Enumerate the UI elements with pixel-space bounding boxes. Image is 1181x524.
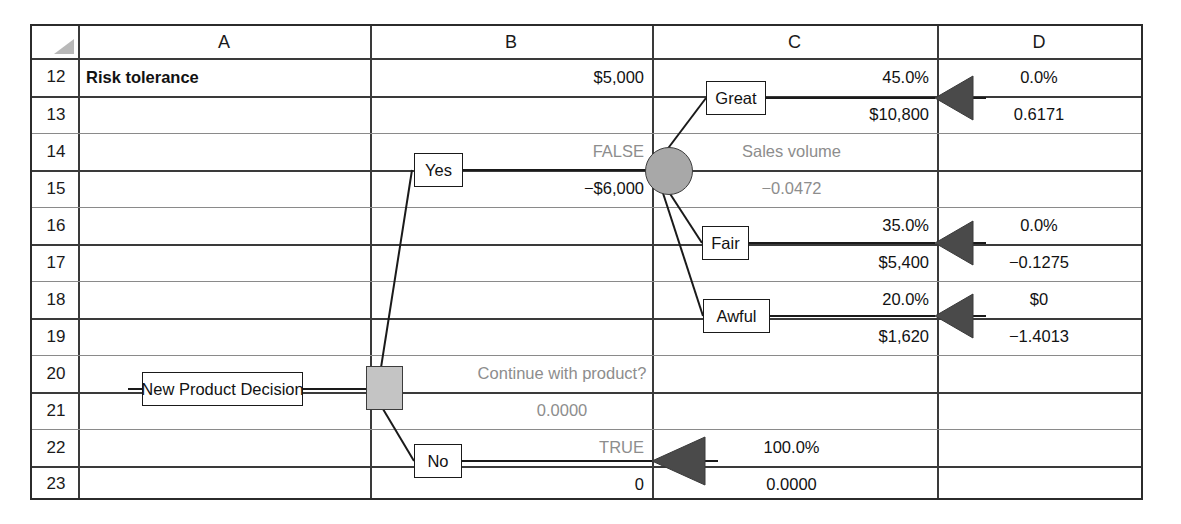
row-header-20[interactable]: 20 (32, 355, 80, 392)
select-all-triangle-icon (54, 39, 74, 54)
row-header-21[interactable]: 21 (32, 392, 80, 429)
row-header-18[interactable]: 18 (32, 281, 80, 318)
cell-b14[interactable]: FALSE (372, 133, 644, 170)
decision-square-node[interactable] (366, 366, 403, 410)
cell-c23[interactable]: 0.0000 (654, 466, 929, 502)
tree-branch-yes[interactable]: Yes (414, 153, 463, 187)
row-header-17[interactable]: 17 (32, 244, 80, 281)
tree-branch-great[interactable]: Great (706, 81, 766, 115)
cell-c16[interactable]: 35.0% (654, 207, 929, 244)
cell-c13[interactable]: $10,800 (654, 96, 929, 133)
cell-c19[interactable]: $1,620 (654, 318, 929, 355)
tree-branch-fair[interactable]: Fair (702, 226, 749, 260)
cell-c14[interactable]: Sales volume (654, 133, 929, 170)
row-header-22[interactable]: 22 (32, 429, 80, 466)
cell-a12[interactable]: Risk tolerance (86, 58, 366, 96)
cell-c15[interactable]: −0.0472 (654, 170, 929, 207)
cell-b23[interactable]: 0 (372, 466, 644, 502)
row-header-14[interactable]: 14 (32, 133, 80, 170)
cell-c17[interactable]: $5,400 (654, 244, 929, 281)
cell-b21[interactable]: 0.0000 (442, 392, 682, 429)
chance-circle-node[interactable] (645, 147, 693, 195)
column-header-a[interactable]: A (78, 26, 370, 59)
row-header-15[interactable]: 15 (32, 170, 80, 207)
spreadsheet-screenshot: A B C D 12 13 14 15 16 17 18 19 20 21 22… (0, 0, 1181, 524)
cell-d16[interactable]: 0.0% (939, 207, 1139, 244)
cell-d12[interactable]: 0.0% (939, 58, 1139, 96)
cell-c22[interactable]: 100.0% (654, 429, 929, 466)
cell-d18[interactable]: $0 (939, 281, 1139, 318)
worksheet-grid: A B C D 12 13 14 15 16 17 18 19 20 21 22… (30, 24, 1143, 500)
row-header-13[interactable]: 13 (32, 96, 80, 133)
cell-d13[interactable]: 0.6171 (939, 96, 1139, 133)
select-all-corner[interactable] (32, 26, 80, 59)
row-header-16[interactable]: 16 (32, 207, 80, 244)
column-header-d[interactable]: D (937, 26, 1141, 59)
cell-d17[interactable]: −0.1275 (939, 244, 1139, 281)
column-header-b[interactable]: B (370, 26, 652, 59)
cell-b15[interactable]: −$6,000 (372, 170, 644, 207)
row-header-19[interactable]: 19 (32, 318, 80, 355)
column-header-c[interactable]: C (652, 26, 937, 59)
cell-c12[interactable]: 45.0% (654, 58, 929, 96)
cell-b20[interactable]: Continue with product? (442, 355, 682, 392)
cell-b12[interactable]: $5,000 (372, 58, 644, 96)
row-header-23[interactable]: 23 (32, 466, 80, 502)
cell-c18[interactable]: 20.0% (654, 281, 929, 318)
row-header-12[interactable]: 12 (32, 58, 80, 96)
cell-d19[interactable]: −1.4013 (939, 318, 1139, 355)
tree-node-new-product-decision[interactable]: New Product Decision (142, 372, 303, 406)
tree-branch-no[interactable]: No (414, 444, 462, 478)
tree-branch-awful[interactable]: Awful (703, 299, 770, 333)
cell-b22[interactable]: TRUE (372, 429, 644, 466)
